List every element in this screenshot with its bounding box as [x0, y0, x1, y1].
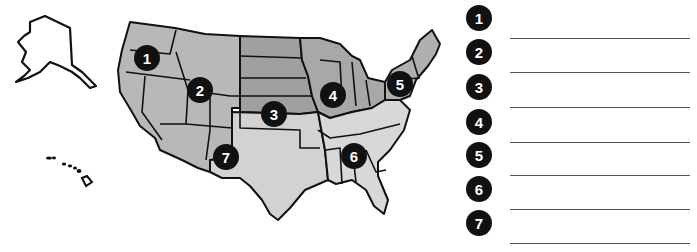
answer-blank-line[interactable]	[510, 243, 690, 244]
alaska-outline	[16, 16, 96, 88]
region-marker-7: 7	[213, 144, 239, 170]
region-marker-2: 2	[187, 77, 213, 103]
hawaii-islands	[46, 156, 92, 186]
answer-row-6: 6	[466, 176, 697, 210]
answer-row-3: 3	[466, 74, 697, 108]
region-marker-3: 3	[261, 101, 287, 127]
answer-number-badge: 6	[466, 176, 492, 202]
answer-blank-line[interactable]	[510, 72, 690, 73]
answer-list: 1 2 3 4 5 6 7	[466, 0, 697, 252]
us-regions-map: 1 2 3 4 5 6 7	[0, 0, 460, 252]
answer-row-7: 7	[466, 210, 697, 244]
region-marker-6: 6	[341, 143, 367, 169]
region-marker-5: 5	[387, 71, 413, 97]
answer-number-badge: 1	[466, 5, 492, 31]
answer-row-5: 5	[466, 142, 697, 176]
answer-number-badge: 4	[466, 109, 492, 135]
region-marker-4: 4	[320, 82, 346, 108]
us-map-graphic	[0, 0, 460, 252]
region-marker-1: 1	[134, 45, 160, 71]
answer-number-badge: 3	[466, 74, 492, 100]
answer-row-4: 4	[466, 109, 697, 143]
answer-number-badge: 2	[466, 39, 492, 65]
answer-number-badge: 7	[466, 210, 492, 236]
answer-row-2: 2	[466, 39, 697, 73]
answer-row-1: 1	[466, 5, 697, 39]
answer-blank-line[interactable]	[510, 107, 690, 108]
answer-number-badge: 5	[466, 142, 492, 168]
